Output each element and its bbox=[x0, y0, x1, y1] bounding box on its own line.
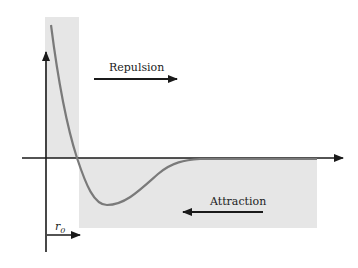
repulsion-label: Repulsion bbox=[109, 61, 164, 74]
attraction-region bbox=[79, 158, 317, 228]
attraction-label: Attraction bbox=[209, 195, 266, 208]
repulsion-region bbox=[45, 17, 79, 158]
r0-label: r0 bbox=[55, 220, 65, 235]
potential-diagram: Repulsion Attraction r0 bbox=[0, 0, 358, 268]
